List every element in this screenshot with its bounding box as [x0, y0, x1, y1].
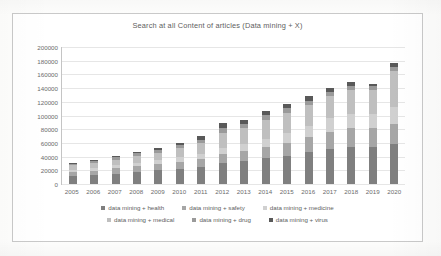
bar-segment[interactable]: [133, 156, 141, 163]
bar-segment[interactable]: [219, 154, 227, 163]
bar-segment[interactable]: [369, 90, 377, 114]
stacked-bar[interactable]: [326, 88, 334, 184]
bar-segment[interactable]: [154, 170, 162, 184]
legend-row-top: data mining + healthdata mining + safety…: [101, 204, 333, 211]
bar-column[interactable]: [105, 47, 126, 184]
bar-segment[interactable]: [305, 105, 313, 126]
bar-segment[interactable]: [240, 161, 248, 184]
bar-segment[interactable]: [262, 158, 270, 184]
bar-segment[interactable]: [347, 114, 355, 128]
stacked-bar[interactable]: [219, 123, 227, 184]
bar-segment[interactable]: [283, 133, 291, 143]
bar-column[interactable]: [341, 47, 362, 184]
bar-column[interactable]: [83, 47, 104, 184]
x-axis-tick-label: 2015: [276, 188, 298, 195]
y-axis-tick-label: 100000: [37, 112, 58, 119]
bar-segment[interactable]: [283, 143, 291, 156]
x-axis-tick-label: 2009: [147, 188, 169, 195]
legend-item[interactable]: data mining + virus: [269, 216, 328, 223]
stacked-bar[interactable]: [262, 111, 270, 184]
bar-segment[interactable]: [390, 144, 398, 184]
bar-segment[interactable]: [154, 153, 162, 161]
y-axis-tick-label: 140000: [37, 85, 58, 92]
bar-segment[interactable]: [305, 152, 313, 184]
bar-column[interactable]: [148, 47, 169, 184]
legend-row-bottom: data mining + medicaldata mining + drugd…: [107, 216, 328, 223]
bar-segment[interactable]: [176, 148, 184, 157]
y-axis-tick-label: 200000: [37, 44, 58, 51]
bar-segment[interactable]: [283, 113, 291, 133]
stacked-bar[interactable]: [369, 84, 377, 184]
stacked-bar[interactable]: [390, 63, 398, 184]
y-axis-tick-label: 60000: [41, 139, 58, 146]
bar-segment[interactable]: [240, 151, 248, 161]
bar-segment[interactable]: [326, 118, 334, 131]
bar-segment[interactable]: [326, 149, 334, 184]
plot-wrapper: 2000001800001600001400001200001000008000…: [61, 47, 405, 185]
bar-column[interactable]: [212, 47, 233, 184]
bar-segment[interactable]: [219, 133, 227, 148]
bar-segment[interactable]: [347, 128, 355, 147]
stacked-bar[interactable]: [112, 156, 120, 184]
legend-item[interactable]: data mining + safety: [182, 204, 245, 211]
bar-segment[interactable]: [176, 169, 184, 184]
bar-segment[interactable]: [369, 147, 377, 184]
bar-segment[interactable]: [369, 128, 377, 146]
bar-segment[interactable]: [347, 147, 355, 184]
stacked-bar[interactable]: [283, 104, 291, 184]
bar-column[interactable]: [62, 47, 83, 184]
bar-segment[interactable]: [326, 132, 334, 149]
bar-segment[interactable]: [390, 124, 398, 144]
chart-page: Search at all Content of articles (Data …: [0, 0, 441, 256]
bar-segment[interactable]: [219, 163, 227, 184]
bar-column[interactable]: [255, 47, 276, 184]
bar-column[interactable]: [169, 47, 190, 184]
bar-segment[interactable]: [112, 174, 120, 184]
bar-segment[interactable]: [240, 144, 248, 151]
stacked-bar[interactable]: [347, 82, 355, 184]
chart-title: Search at all Content of articles (Data …: [13, 21, 422, 30]
x-axis-tick-label: 2011: [190, 188, 212, 195]
stacked-bar[interactable]: [176, 143, 184, 184]
legend-item[interactable]: data mining + medicine: [263, 204, 334, 211]
bar-column[interactable]: [362, 47, 383, 184]
bar-segment[interactable]: [305, 137, 313, 152]
legend-item[interactable]: data mining + medical: [107, 216, 174, 223]
bar-segment[interactable]: [262, 120, 270, 139]
stacked-bar[interactable]: [305, 96, 313, 184]
stacked-bar[interactable]: [240, 120, 248, 184]
bar-segment[interactable]: [176, 162, 184, 169]
bar-segment[interactable]: [240, 128, 248, 144]
bar-column[interactable]: [298, 47, 319, 184]
legend-item[interactable]: data mining + health: [101, 204, 164, 211]
bar-segment[interactable]: [347, 90, 355, 114]
stacked-bar[interactable]: [133, 152, 141, 184]
bar-segment[interactable]: [369, 114, 377, 128]
legend-swatch-icon: [263, 206, 267, 210]
bar-column[interactable]: [191, 47, 212, 184]
bar-segment[interactable]: [283, 156, 291, 184]
stacked-bar[interactable]: [197, 136, 205, 184]
bar-segment[interactable]: [326, 96, 334, 119]
bar-column[interactable]: [234, 47, 255, 184]
bar-segment[interactable]: [262, 139, 270, 147]
bar-column[interactable]: [276, 47, 297, 184]
bar-segment[interactable]: [90, 175, 98, 184]
stacked-bar[interactable]: [69, 163, 77, 184]
bar-segment[interactable]: [197, 159, 205, 167]
bar-segment[interactable]: [133, 172, 141, 184]
bar-segment[interactable]: [390, 71, 398, 108]
bar-column[interactable]: [384, 47, 405, 184]
bar-segment[interactable]: [197, 143, 205, 154]
bar-segment[interactable]: [262, 147, 270, 159]
bar-column[interactable]: [319, 47, 340, 184]
legend-item[interactable]: data mining + drug: [192, 216, 250, 223]
plot-area: 2000001800001600001400001200001000008000…: [61, 47, 405, 185]
bar-segment[interactable]: [390, 107, 398, 124]
stacked-bar[interactable]: [154, 148, 162, 184]
bar-column[interactable]: [126, 47, 147, 184]
bar-segment[interactable]: [197, 167, 205, 184]
stacked-bar[interactable]: [90, 160, 98, 184]
bar-segment[interactable]: [69, 176, 77, 184]
bar-segment[interactable]: [305, 126, 313, 137]
